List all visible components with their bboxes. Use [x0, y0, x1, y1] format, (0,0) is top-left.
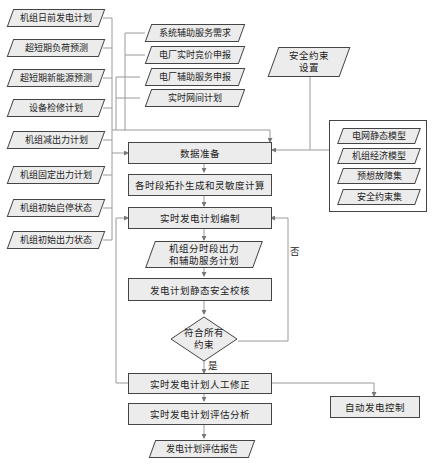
input-label: 系统辅助服务需求 [159, 28, 231, 39]
input-label: 超短期负荷预测 [25, 43, 88, 54]
input-maintenance-plan: 设备检修计划 [10, 99, 102, 117]
input-fixed-output-plan: 机组固定出力计划 [10, 166, 102, 184]
step-label: 实时发电计划评估分析 [150, 407, 250, 421]
label-yes: 是 [208, 358, 218, 372]
step-label: 各时段拓扑生成和灵敏度计算 [135, 178, 265, 192]
input-unit-dayahead-plan: 机组日前发电计划 [10, 9, 102, 27]
decision-all-constraints: 符合所有约束 [170, 316, 238, 362]
output-line2: 和辅助服务计划 [169, 255, 239, 266]
output-unit-schedule: 机组分时段出力和辅助服务计划 [150, 241, 258, 268]
step-data-preparation: 数据准备 [128, 142, 272, 164]
input-label: 超短期新能源预测 [20, 73, 92, 84]
step-agc: 自动发电控制 [330, 396, 420, 418]
model-unit-economic: 机组经济模型 [340, 148, 418, 164]
input-initial-onoff-state: 机组初始启停状态 [10, 199, 102, 217]
model-contingency-set: 预想故障集 [340, 168, 418, 184]
model-label: 机组经济模型 [352, 151, 406, 162]
model-label: 电网静态模型 [352, 131, 406, 142]
model-label: 安全约束集 [357, 192, 402, 203]
input-ultrashort-load-forecast: 超短期负荷预测 [10, 39, 102, 57]
step-realtime-plan-compile: 实时发电计划编制 [128, 207, 272, 229]
step-label: 实时发电计划人工修正 [150, 377, 250, 391]
step-evaluation-analysis: 实时发电计划评估分析 [128, 403, 272, 425]
input-label: 机组初始启停状态 [20, 203, 92, 214]
input-realtime-bidding: 电厂实时竞价申报 [148, 46, 242, 64]
input-label: 设备检修计划 [29, 103, 83, 114]
step-label: 发电计划静态安全校核 [150, 283, 250, 297]
input-label: 机组日前发电计划 [20, 13, 92, 24]
model-label: 预想故障集 [357, 171, 402, 182]
step-label: 自动发电控制 [345, 400, 405, 414]
step-label: 数据准备 [180, 146, 220, 160]
security-constraint-setting: 安全约束设置 [273, 47, 345, 77]
output-label: 发电计划评估报告 [166, 444, 238, 455]
label-no: 否 [290, 244, 300, 258]
input-aux-service-bidding: 电厂辅助服务申报 [148, 68, 242, 86]
step-topology-sensitivity: 各时段拓扑生成和灵敏度计算 [128, 174, 272, 196]
step-manual-correction: 实时发电计划人工修正 [128, 373, 272, 394]
input-interregional-plan: 实时网间计划 [148, 89, 242, 107]
input-label: 实时网间计划 [168, 93, 222, 104]
input-label: 机组固定出力计划 [20, 170, 92, 181]
security-line2: 设置 [299, 62, 319, 73]
step-label: 实时发电计划编制 [160, 211, 240, 225]
input-label: 电厂辅助服务申报 [159, 72, 231, 83]
step-static-security-check: 发电计划静态安全校核 [128, 278, 272, 301]
model-security-constraints: 安全约束集 [340, 189, 418, 205]
model-grid-static: 电网静态模型 [340, 128, 418, 144]
input-label: 机组减出力计划 [25, 135, 88, 146]
decision-line2: 约束 [194, 339, 214, 350]
decision-line1: 符合所有 [184, 327, 224, 338]
input-aux-service-demand: 系统辅助服务需求 [148, 24, 242, 42]
input-initial-output-state: 机组初始出力状态 [10, 231, 102, 249]
output-label: 机组分时段出力和辅助服务计划 [169, 243, 239, 267]
input-label: 机组初始出力状态 [20, 235, 92, 246]
output-evaluation-report: 发电计划评估报告 [152, 440, 252, 458]
input-ultrashort-renewable-forecast: 超短期新能源预测 [10, 69, 102, 87]
input-derate-plan: 机组减出力计划 [10, 131, 102, 149]
decision-label: 符合所有约束 [184, 327, 224, 351]
security-setting-label: 安全约束设置 [289, 50, 329, 74]
output-line1: 机组分时段出力 [169, 243, 239, 254]
security-line1: 安全约束 [289, 50, 329, 61]
input-label: 电厂实时竞价申报 [159, 50, 231, 61]
